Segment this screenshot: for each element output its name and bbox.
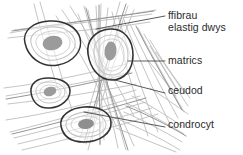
label-matrics-text: matrics xyxy=(168,54,202,66)
label-ceudod-text: ceudod xyxy=(168,84,203,96)
figure-root: ffibrau elastig dwys matrics ceudod cond… xyxy=(0,0,243,155)
labels-layer: ffibrau elastig dwys matrics ceudod cond… xyxy=(0,0,243,155)
label-ffibrau-elastig-dwys: ffibrau elastig dwys xyxy=(168,10,226,33)
label-condrocyt-text: condrocyt xyxy=(168,118,214,130)
label-ceudod: ceudod xyxy=(168,85,203,97)
label-ffibrau-line2: elastig dwys xyxy=(168,22,226,34)
label-condrocyt: condrocyt xyxy=(168,119,214,131)
label-matrics: matrics xyxy=(168,55,202,67)
label-ffibrau-line1: ffibrau xyxy=(168,9,197,21)
